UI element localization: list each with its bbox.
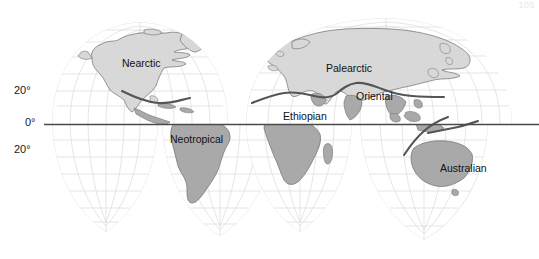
region-label-palearctic: Palearctic — [326, 62, 372, 74]
page-number: 105 — [518, 0, 535, 10]
eastern-hemisphere-lobes — [240, 10, 520, 255]
latitude-label-20s: 20° — [14, 143, 31, 155]
biogeographic-realms-map-figure: 20° 0° 20° Nearctic Neotropical Palearct… — [0, 0, 539, 259]
lobe-east-south-2 — [355, 120, 495, 255]
landmass-tasmania — [452, 189, 459, 195]
latitude-label-20n: 20° — [14, 84, 31, 96]
lobe-west-south-1 — [40, 120, 180, 250]
landmass-madagascar — [323, 144, 332, 164]
latitude-label-0: 0° — [25, 116, 36, 128]
world-map-svg — [0, 0, 539, 259]
region-label-oriental: Oriental — [356, 90, 393, 102]
lobe-east-north — [240, 10, 520, 130]
region-label-nearctic: Nearctic — [122, 57, 161, 69]
region-label-australian: Australian — [440, 162, 487, 174]
region-label-ethiopian: Ethiopian — [283, 110, 327, 122]
region-label-neotropical: Neotropical — [170, 133, 223, 145]
